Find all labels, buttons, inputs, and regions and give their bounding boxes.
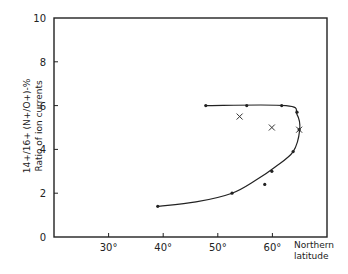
cross-marker (237, 114, 243, 120)
data-point (230, 192, 233, 195)
data-point (245, 104, 248, 107)
data-points-dots (156, 104, 301, 208)
chart: 0246810 30°40°50°60° Northern latitude R… (0, 0, 348, 274)
data-point (204, 104, 207, 107)
x-tick-label: 30° (100, 242, 118, 253)
data-point (292, 150, 295, 153)
x-tick-label: 50° (209, 242, 227, 253)
data-point (263, 183, 266, 186)
y-tick-label: 0 (40, 232, 46, 243)
cross-marker (269, 125, 275, 131)
x-tick-label: 40° (154, 242, 172, 253)
y-axis-label-line1: Ratio of ion currents (34, 80, 44, 172)
fitted-curve (158, 105, 300, 206)
x-axis-label-line1: Northern (294, 240, 334, 250)
data-point (280, 104, 283, 107)
x-axis-ticks: 30°40°50°60° (100, 233, 282, 253)
y-tick-label: 8 (40, 57, 46, 68)
plot-frame (54, 18, 327, 237)
data-point (270, 170, 273, 173)
x-axis-label-line2: latitude (294, 251, 329, 261)
data-points-crosses (237, 114, 303, 133)
data-point (156, 205, 159, 208)
y-tick-label: 10 (33, 13, 46, 24)
data-point (295, 111, 298, 114)
y-axis-label-line2: 14+/16+ (N+/O+)-% (22, 78, 32, 173)
x-tick-label: 60° (264, 242, 282, 253)
y-tick-label: 2 (40, 188, 46, 199)
